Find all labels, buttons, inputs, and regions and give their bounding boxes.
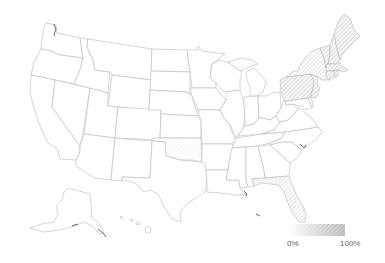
state-arizona[interactable] (76, 134, 115, 180)
state-wyoming[interactable] (108, 75, 151, 110)
state-florida[interactable] (252, 176, 306, 222)
legend-min-label: 0% (287, 239, 299, 248)
states-layer (30, 14, 360, 234)
legend-max-label: 100% (340, 239, 360, 248)
state-rhode-island[interactable] (334, 70, 338, 77)
state-kansas[interactable] (160, 114, 201, 138)
state-connecticut[interactable] (326, 71, 335, 80)
state-pennsylvania[interactable] (280, 74, 314, 101)
state-colorado[interactable] (115, 107, 161, 140)
legend-gradient-bar (288, 224, 345, 236)
state-alaska[interactable] (30, 188, 104, 234)
state-new-mexico[interactable] (111, 138, 152, 181)
state-hawaii[interactable] (120, 216, 151, 233)
map-legend: 0% 100% (288, 224, 360, 254)
state-north-dakota[interactable] (151, 49, 190, 72)
